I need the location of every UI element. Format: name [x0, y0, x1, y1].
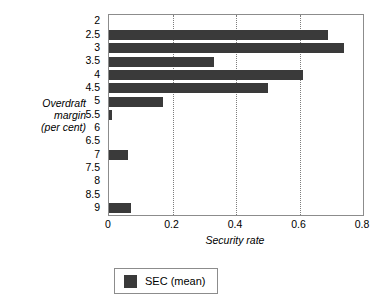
bar-row	[109, 15, 363, 28]
y-axis-tick-label: 8.5	[60, 187, 104, 200]
bar-row	[109, 28, 363, 41]
y-axis-tick-label: 8	[60, 174, 104, 187]
y-axis-tick-label: 2	[60, 14, 104, 27]
bar	[109, 203, 131, 213]
y-axis-tick-label: 2.5	[60, 27, 104, 40]
bar-row	[109, 188, 363, 201]
y-axis-tick-label: 6.5	[60, 134, 104, 147]
y-axis-tick-label: 5	[60, 94, 104, 107]
y-axis-tick-label: 9	[60, 201, 104, 214]
bar-row	[109, 202, 363, 215]
bar-row	[109, 108, 363, 121]
bar-chart-figure: Overdraft margin (per cent) 22.533.544.5…	[0, 0, 392, 302]
y-axis-tick-label: 4	[60, 67, 104, 80]
x-axis-tick-label: 0.8	[355, 218, 370, 231]
bar	[109, 150, 128, 160]
bar-row	[109, 175, 363, 188]
bar-row	[109, 162, 363, 175]
bar-row	[109, 148, 363, 161]
y-axis-tick-label: 7	[60, 147, 104, 160]
bar	[109, 97, 163, 107]
y-axis-tick-labels: 22.533.544.555.566.577.588.59	[60, 14, 104, 214]
legend-swatch-sec-mean	[124, 275, 137, 288]
x-axis-tick-label: 0	[105, 218, 111, 231]
chart-legend: SEC (mean)	[114, 268, 218, 294]
x-axis-tick-labels: 00.20.40.60.8	[108, 218, 362, 232]
x-axis-tick-label: 0.6	[291, 218, 306, 231]
bar	[109, 43, 344, 53]
bar	[109, 57, 214, 67]
plot-area	[108, 14, 364, 216]
bar-row	[109, 122, 363, 135]
y-axis-tick-label: 6	[60, 121, 104, 134]
x-axis-tick-label: 0.2	[164, 218, 179, 231]
y-axis-tick-label: 7.5	[60, 161, 104, 174]
bar-row	[109, 95, 363, 108]
y-axis-tick-label: 4.5	[60, 81, 104, 94]
bar-row	[109, 55, 363, 68]
bar	[109, 83, 268, 93]
x-axis-tick-label: 0.4	[228, 218, 243, 231]
bar-row	[109, 42, 363, 55]
bar	[109, 30, 328, 40]
bar-row	[109, 82, 363, 95]
bar-row	[109, 68, 363, 81]
bar	[109, 70, 303, 80]
bar-row	[109, 135, 363, 148]
y-axis-tick-label: 3	[60, 41, 104, 54]
x-axis-title: Security rate	[108, 234, 362, 247]
y-axis-tick-label: 5.5	[60, 107, 104, 120]
legend-label-sec-mean: SEC (mean)	[145, 276, 206, 287]
bar-series-sec-mean	[109, 15, 363, 215]
bar	[109, 110, 112, 120]
y-axis-tick-label: 3.5	[60, 54, 104, 67]
